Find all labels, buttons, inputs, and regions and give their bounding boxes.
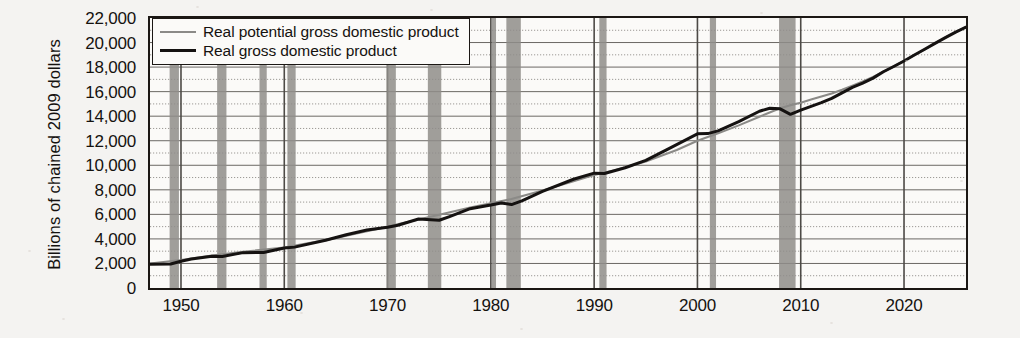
paper-speck xyxy=(830,322,833,324)
y-tick-label: 12,000 xyxy=(16,132,136,149)
recession-band xyxy=(710,18,716,288)
paper-speck xyxy=(300,312,303,314)
x-tick-label: 1980 xyxy=(472,296,509,316)
gdp-potential-gdp-chart: Billions of chained 2009 dollars 22,0002… xyxy=(0,0,1020,338)
x-tick-label: 2020 xyxy=(886,296,923,316)
chart-legend: Real potential gross domestic product Re… xyxy=(152,18,470,65)
y-tick-label: 0 xyxy=(16,280,136,297)
paper-speck xyxy=(520,328,523,330)
paper-speck xyxy=(760,12,763,14)
y-tick-label: 2,000 xyxy=(16,255,136,272)
y-tick-label: 14,000 xyxy=(16,108,136,125)
y-axis-tick-labels: 22,00020,00018,00016,00014,00012,00010,0… xyxy=(16,0,136,338)
y-tick-label: 18,000 xyxy=(16,59,136,76)
x-tick-label: 1970 xyxy=(369,296,406,316)
recession-band xyxy=(506,18,520,288)
legend-item-potential: Real potential gross domestic product xyxy=(160,22,459,41)
recession-band xyxy=(779,18,796,288)
paper-speck xyxy=(690,300,693,302)
legend-swatch-potential-line xyxy=(160,31,196,33)
legend-item-actual: Real gross domestic product xyxy=(160,41,459,60)
x-tick-label: 1960 xyxy=(266,296,303,316)
y-tick-label: 6,000 xyxy=(16,206,136,223)
paper-speck xyxy=(112,95,115,97)
paper-speck xyxy=(28,250,31,252)
x-tick-label: 2000 xyxy=(679,296,716,316)
y-tick-label: 22,000 xyxy=(16,10,136,27)
paper-speck xyxy=(905,60,908,62)
recession-band xyxy=(599,18,606,288)
y-tick-label: 20,000 xyxy=(16,34,136,51)
x-tick-label: 1950 xyxy=(162,296,199,316)
x-tick-label: 1990 xyxy=(576,296,613,316)
paper-speck xyxy=(196,6,199,8)
legend-swatch-actual-line xyxy=(160,49,196,52)
paper-speck xyxy=(62,318,65,320)
paper-speck xyxy=(430,9,433,11)
y-tick-label: 16,000 xyxy=(16,83,136,100)
legend-label-potential: Real potential gross domestic product xyxy=(203,23,459,41)
paper-speck xyxy=(960,180,963,182)
y-tick-label: 4,000 xyxy=(16,230,136,247)
recession-band xyxy=(492,18,496,288)
y-tick-label: 10,000 xyxy=(16,157,136,174)
x-tick-label: 2010 xyxy=(782,296,819,316)
y-tick-label: 8,000 xyxy=(16,181,136,198)
legend-label-actual: Real gross domestic product xyxy=(203,42,397,60)
